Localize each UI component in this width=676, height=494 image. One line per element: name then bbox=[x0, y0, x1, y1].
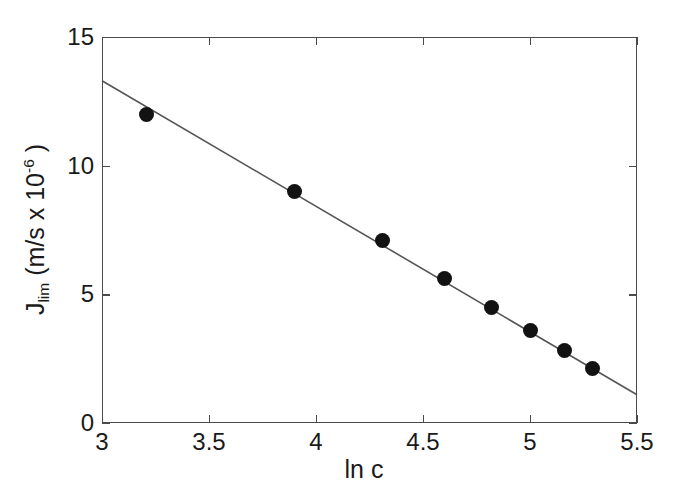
y-axis-tick-right bbox=[629, 37, 637, 38]
y-axis-tick-right bbox=[629, 294, 637, 295]
x-axis-tick-top bbox=[316, 37, 317, 45]
x-tick-label: 4.5 bbox=[406, 428, 439, 456]
y-axis-tick-right bbox=[629, 166, 637, 167]
x-axis-tick-top bbox=[637, 37, 638, 45]
x-axis-tick-top bbox=[530, 37, 531, 45]
x-axis-tick bbox=[209, 415, 210, 423]
x-axis-tick bbox=[423, 415, 424, 423]
y-tick-label: 15 bbox=[67, 23, 94, 51]
x-axis-tick-top bbox=[209, 37, 210, 45]
y-axis-title-base: J bbox=[21, 303, 49, 316]
y-axis-title-superscript: -6 bbox=[20, 159, 37, 173]
x-axis-tick bbox=[530, 415, 531, 423]
x-axis-tick-top bbox=[423, 37, 424, 45]
y-axis-tick bbox=[102, 294, 110, 295]
x-tick-label: 5.5 bbox=[620, 428, 653, 456]
y-tick-label: 0 bbox=[81, 409, 94, 437]
y-axis-title-subscript: lim bbox=[34, 283, 51, 303]
x-axis-tick bbox=[637, 415, 638, 423]
x-axis-tick bbox=[102, 415, 103, 423]
x-tick-label: 3 bbox=[95, 428, 108, 456]
x-axis-tick bbox=[316, 415, 317, 423]
x-tick-label: 5 bbox=[523, 428, 536, 456]
figure: 33.544.555.5 051015 ln c Jlim (m/s x 10-… bbox=[0, 0, 676, 494]
x-axis-title-text: ln c bbox=[293, 455, 384, 484]
y-axis-tick-right bbox=[629, 423, 637, 424]
y-tick-label: 5 bbox=[81, 280, 94, 308]
y-axis-tick bbox=[102, 423, 110, 424]
y-axis-title-tail: ) bbox=[21, 144, 49, 159]
plot-frame bbox=[102, 37, 637, 423]
y-axis-title: Jlim (m/s x 10-6 ) bbox=[21, 65, 50, 395]
x-axis-title: ln c bbox=[0, 455, 676, 484]
y-axis-tick bbox=[102, 37, 110, 38]
y-tick-label: 10 bbox=[67, 152, 94, 180]
x-tick-label: 3.5 bbox=[192, 428, 225, 456]
y-axis-tick bbox=[102, 166, 110, 167]
x-tick-label: 4 bbox=[309, 428, 322, 456]
y-axis-title-mid: (m/s x 10 bbox=[21, 173, 49, 283]
